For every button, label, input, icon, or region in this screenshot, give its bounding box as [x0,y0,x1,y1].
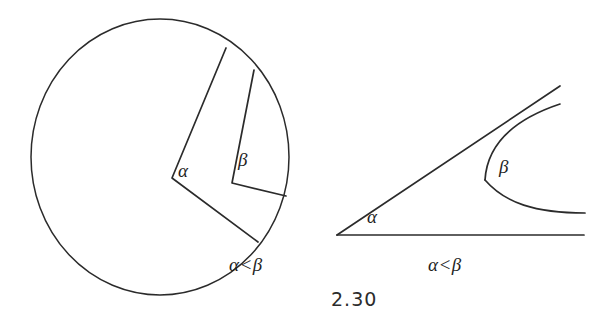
figure-caption: 2.30 [331,290,377,309]
alpha-label-left: α [178,161,188,180]
beta-sector-rays [232,70,286,196]
figure-drawing [0,0,612,329]
beta-lower-curve [485,180,585,213]
relation-label-left: α<β [229,255,263,274]
relation-label-right: α<β [428,255,462,274]
beta-label-left: β [238,150,247,169]
beta-label-right: β [499,157,508,176]
alpha-label-right: α [367,207,377,226]
beta-upper-curve [485,104,560,180]
figure-container: α β α<β α β α<β 2.30 [0,0,612,329]
alpha-sector-rays [172,48,258,242]
